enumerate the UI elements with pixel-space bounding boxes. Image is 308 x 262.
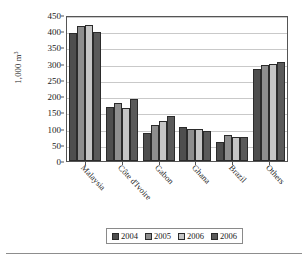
bar [85,25,93,161]
x-axis-label: Gabon [153,163,176,186]
y-axis-tick-label: 450 [48,12,62,21]
bar [269,64,277,161]
bar [261,65,269,161]
y-axis-tick-mark [61,64,64,65]
bar [159,121,167,161]
legend-item: 2004 [112,231,138,241]
x-axis-label-slot: Gabon [140,162,177,224]
bar [69,33,77,161]
y-axis-title-text: 1,000 m [13,54,23,83]
legend-label: 2004 [121,231,138,241]
legend-label: 2005 [154,231,171,241]
y-axis-tick-mark [61,48,64,49]
bar [151,125,159,161]
y-axis-tick-mark [61,113,64,114]
bar-group [67,17,104,161]
legend-swatch [178,233,185,240]
y-axis-tick-mark [61,129,64,130]
y-axis-tick-label: 150 [48,109,62,118]
y-axis-tick-mark [61,80,64,81]
legend-swatch [112,233,119,240]
y-axis-tick-label: 250 [48,76,62,85]
legend-item: 2006 [211,231,237,241]
bar [195,129,203,161]
bar-group [177,17,214,161]
y-axis-tick-label: 300 [48,60,62,69]
bar-group [140,17,177,161]
legend-item: 2005 [145,231,171,241]
bar-group [104,17,141,161]
x-axis-label-slot: Brazil [214,162,251,224]
bar [240,137,248,161]
y-axis-tick-mark [61,97,64,98]
bar [187,129,195,161]
bar [167,116,175,161]
bar [106,107,114,162]
bar [224,135,232,161]
y-axis-tick-label: 200 [48,93,62,102]
bar [93,32,101,161]
y-axis-ticks: 050100150200250300350400450 [38,16,64,162]
x-axis-label: Others [264,163,287,186]
y-axis-tick-label: 400 [48,28,62,37]
y-axis-title-exponent: 3 [13,51,19,54]
bar-chart-figure: 1,000 m3 050100150200250300350400450 Mal… [0,0,308,262]
bar [77,26,85,161]
bar [253,69,261,161]
x-axis-label: Brazil [227,163,248,185]
y-axis-title: 1,000 m3 [13,27,24,107]
y-axis-tick-mark [61,16,64,17]
y-axis-tick-label: 350 [48,44,62,53]
y-axis-tick-label: 100 [48,125,62,134]
x-axis-label-slot: Côte d'Ivoire [103,162,140,224]
x-axis-label-slot: Others [251,162,288,224]
bar [277,62,285,161]
y-axis-tick-label: 50 [52,141,61,150]
bar [203,131,211,161]
bar [232,137,240,161]
legend-swatch [145,233,152,240]
bar [114,103,122,161]
bar [216,142,224,161]
x-axis-label-slot: Malaysia [66,162,103,224]
legend-label: 2006 [187,231,204,241]
x-axis-label: Ghana [190,163,212,186]
y-axis-tick-mark [61,145,64,146]
legend-label: 2006 [220,231,237,241]
x-axis-labels: MalaysiaCôte d'IvoireGabonGhanaBrazilOth… [66,162,288,224]
chart-legend: 2004200520062006 [106,228,243,244]
bar-group [250,17,287,161]
plot-area [66,16,288,162]
bar-group [214,17,251,161]
bar [143,133,151,161]
bar [179,127,187,161]
footer-rule [6,253,302,254]
bar-groups [67,17,287,161]
legend-item: 2006 [178,231,204,241]
y-axis-tick-mark [61,162,64,163]
bar [122,108,130,161]
legend-swatch [211,233,218,240]
y-axis-tick-mark [61,32,64,33]
bar [130,99,138,161]
x-axis-label-slot: Ghana [177,162,214,224]
